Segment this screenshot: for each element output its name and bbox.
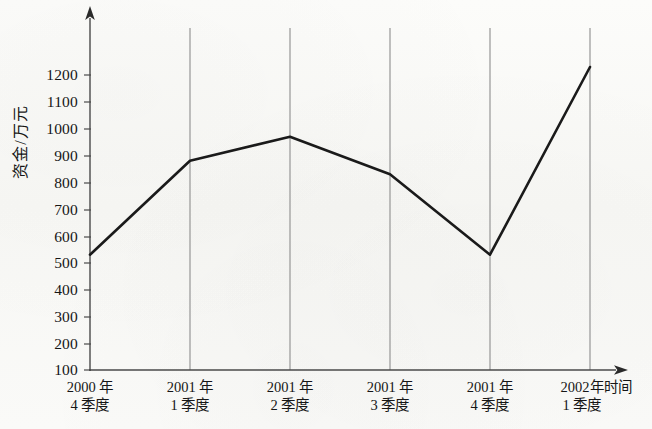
x-tick-line-2: 1 季度 xyxy=(528,396,636,414)
data-series-line xyxy=(90,67,590,255)
y-tick-label-600: 600 xyxy=(22,229,78,245)
y-tick-label-100: 100 xyxy=(22,362,78,378)
x-axis xyxy=(89,365,628,375)
y-tick-label-500: 500 xyxy=(22,255,78,271)
y-axis xyxy=(85,6,95,371)
y-tick-label-1100: 1100 xyxy=(22,94,78,110)
x-tick-line-1: 2001 年 xyxy=(136,378,244,396)
x-tick-line-1: 2001 年 xyxy=(336,378,444,396)
x-tick-line-2: 2 季度 xyxy=(236,396,344,414)
x-tick-line-1: 2000 年 xyxy=(36,378,144,396)
gridlines xyxy=(190,28,590,370)
x-tick-label-2000-q4: 2000 年 4 季度 xyxy=(36,378,144,414)
x-tick-line-2: 4 季度 xyxy=(36,396,144,414)
x-tick-label-2001-q3: 2001 年 3 季度 xyxy=(336,378,444,414)
y-tick-label-300: 300 xyxy=(22,309,78,325)
y-tick-label-400: 400 xyxy=(22,282,78,298)
x-axis-title: 时间 xyxy=(604,378,632,396)
x-tick-line-2: 1 季度 xyxy=(136,396,244,414)
y-tick-label-700: 700 xyxy=(22,202,78,218)
y-tick-label-200: 200 xyxy=(22,336,78,352)
y-tick-label-800: 800 xyxy=(22,175,78,191)
x-tick-label-2001-q1: 2001 年 1 季度 xyxy=(136,378,244,414)
line-chart-plot xyxy=(0,0,652,429)
chart-page: 资金/万元 1200 1100 1000 900 800 700 600 500… xyxy=(0,0,652,429)
y-tick-label-900: 900 xyxy=(22,148,78,164)
x-tick-label-2001-q2: 2001 年 2 季度 xyxy=(236,378,344,414)
y-tick-label-1200: 1200 xyxy=(22,67,78,83)
x-tick-line-2: 3 季度 xyxy=(336,396,444,414)
y-tick-label-1000: 1000 xyxy=(22,121,78,137)
x-tick-line-1: 2001 年 xyxy=(236,378,344,396)
